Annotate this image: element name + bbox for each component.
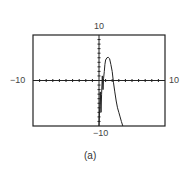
y-min-label: −10 [93,128,108,138]
x-min-label: −10 [10,75,25,85]
figure-caption: (a) [84,150,96,161]
y-max-label: 10 [94,21,104,31]
x-max-label: 10 [169,75,179,85]
graph-window [0,0,181,172]
